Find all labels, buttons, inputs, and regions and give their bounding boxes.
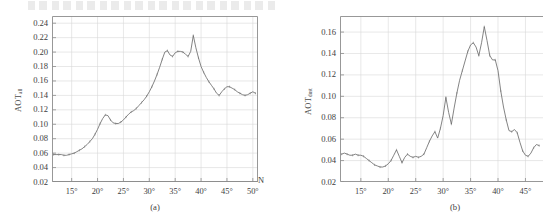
- panel-a: AOTall 0.020.040.060.080.100.120.140.160…: [0, 0, 272, 223]
- y-tick-label: 0.04: [309, 155, 336, 165]
- y-tick-label: 0.02: [21, 177, 48, 187]
- y-tick-label: 0.08: [309, 112, 336, 122]
- y-tick-label: 0.18: [21, 61, 48, 71]
- x-tick-label: 35°: [161, 187, 189, 196]
- x-tick-label: 45°: [213, 187, 241, 196]
- x-tick-label: 25°: [109, 187, 137, 196]
- y-tick-label: 0.12: [21, 104, 48, 114]
- y-tick-label: 0.08: [21, 133, 48, 143]
- plot-area-a: [52, 16, 258, 182]
- panel-b: AOTdust 0.020.040.060.080.100.120.140.16…: [272, 0, 543, 223]
- y-tick-label: 0.06: [309, 134, 336, 144]
- plot-area-b: [340, 16, 543, 182]
- x-tick-label: 40°: [484, 187, 512, 196]
- y-tick-label: 0.22: [21, 32, 48, 42]
- y-tick-label: 0.16: [309, 27, 336, 37]
- y-tick-label: 0.16: [21, 75, 48, 85]
- data-line-b: [342, 27, 540, 167]
- x-tick-label: 20°: [84, 187, 112, 196]
- y-tick-label: 0.14: [309, 48, 336, 58]
- x-tick-label: 50°: [239, 187, 267, 196]
- x-tick-label: 25°: [402, 187, 430, 196]
- y-tick-label: 0.06: [21, 148, 48, 158]
- x-tick-label: 45°: [511, 187, 539, 196]
- x-tick-label: 30°: [429, 187, 457, 196]
- y-tick-label: 0.24: [21, 18, 48, 28]
- x-tick-label: 15°: [347, 187, 375, 196]
- y-tick-label: 0.10: [21, 119, 48, 129]
- y-tick-label: 0.12: [309, 69, 336, 79]
- x-tick-label: 35°: [457, 187, 485, 196]
- y-tick-label: 0.14: [21, 90, 48, 100]
- caption-b: (b): [435, 202, 475, 212]
- caption-a: (a): [135, 202, 175, 212]
- x-axis-unit-a: N: [258, 176, 264, 185]
- y-tick-label: 0.20: [21, 47, 48, 57]
- x-tick-label: 20°: [374, 187, 402, 196]
- x-tick-label: 30°: [135, 187, 163, 196]
- plot-frame: [341, 17, 543, 182]
- x-tick-label: 40°: [187, 187, 215, 196]
- figure-container: AOTall 0.020.040.060.080.100.120.140.160…: [0, 0, 543, 223]
- y-tick-label: 0.04: [21, 162, 48, 172]
- y-tick-label: 0.02: [309, 177, 336, 187]
- y-tick-label: 0.10: [309, 91, 336, 101]
- x-tick-label: 15°: [58, 187, 86, 196]
